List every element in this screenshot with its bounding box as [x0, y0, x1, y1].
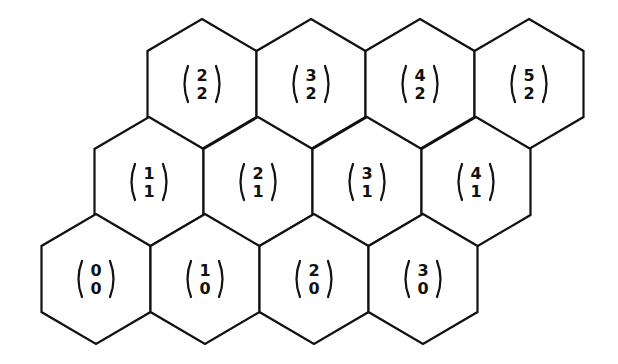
cell-label-top: 1	[143, 164, 154, 183]
cell-label-bottom: 0	[90, 279, 101, 298]
cell-label-top: 1	[199, 261, 210, 280]
cell-label-top: 4	[470, 164, 481, 183]
cell-label-bottom: 2	[523, 84, 534, 103]
cell-label-top: 2	[196, 66, 207, 85]
cell-label-bottom: 0	[308, 279, 319, 298]
cell-label-bottom: 2	[305, 84, 316, 103]
cell-label-bottom: 1	[143, 182, 154, 201]
cell-label-bottom: 1	[361, 182, 372, 201]
cell-label-bottom: 1	[252, 182, 263, 201]
hex-cells: 223242521121314100102030	[42, 19, 584, 344]
cell-label-top: 0	[90, 261, 101, 280]
cell-label-bottom: 0	[417, 279, 428, 298]
cell-label-top: 2	[308, 261, 319, 280]
cell-label-top: 4	[414, 66, 425, 85]
cell-label-top: 3	[361, 164, 372, 183]
cell-label-top: 3	[417, 261, 428, 280]
cell-label-bottom: 0	[199, 279, 210, 298]
cell-label-bottom: 1	[470, 182, 481, 201]
cell-label-top: 5	[523, 66, 534, 85]
cell-label-bottom: 2	[414, 84, 425, 103]
cell-label-top: 2	[252, 164, 263, 183]
cell-label-bottom: 2	[196, 84, 207, 103]
hex-grid-diagram: 223242521121314100102030	[0, 0, 618, 364]
cell-label-top: 3	[305, 66, 316, 85]
